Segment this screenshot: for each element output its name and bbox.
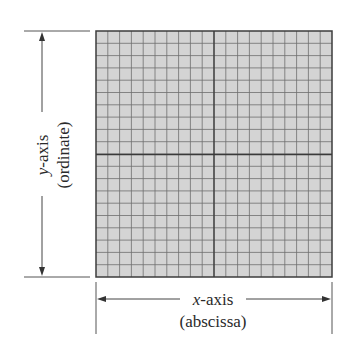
y-axis-suffix: -axis	[33, 135, 52, 168]
x-axis-sublabel: (abscissa)	[179, 313, 246, 330]
x-axis-suffix: -axis	[200, 290, 233, 309]
coordinate-plane-diagram: x-axis (abscissa) y-axis (ordinate)	[0, 0, 355, 354]
arrow-up-icon	[39, 32, 45, 41]
x-axis-label: x-axis	[193, 291, 234, 308]
x-axis-variable: x	[193, 290, 201, 309]
arrow-left-icon	[97, 296, 106, 302]
arrow-right-icon	[322, 296, 331, 302]
y-axis-sublabel: (ordinate)	[53, 121, 74, 188]
arrow-down-icon	[39, 267, 45, 276]
y-axis-label: y-axis	[32, 121, 53, 188]
y-axis-label-group: y-axis (ordinate)	[32, 121, 74, 188]
y-axis-variable: y	[33, 168, 52, 176]
